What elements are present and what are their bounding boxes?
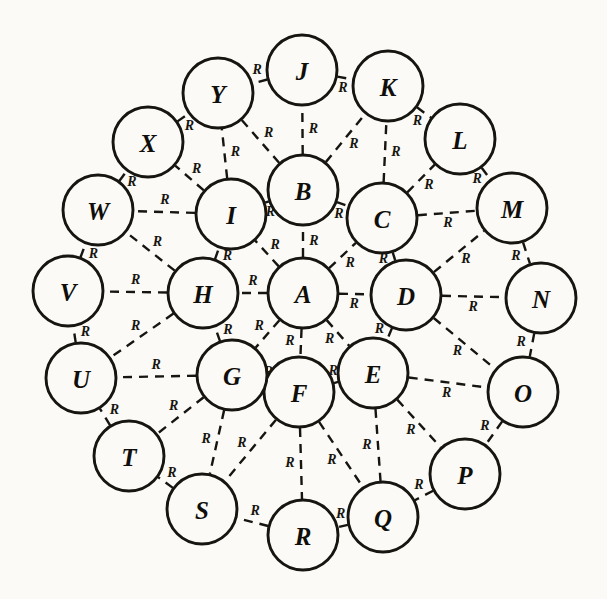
edge-label: R <box>510 248 520 263</box>
node-label-o: O <box>514 380 532 407</box>
edge-label: R <box>442 215 452 230</box>
node-label-v: V <box>60 279 79 306</box>
edge-label: R <box>151 357 161 372</box>
edge-d-e <box>387 328 392 340</box>
node-label-k: K <box>379 74 399 101</box>
edge-r-s <box>237 518 268 526</box>
edge-label: R <box>130 318 140 333</box>
edge-label: R <box>236 435 246 450</box>
edge-e-p <box>397 400 441 448</box>
edge-label: R <box>412 113 422 128</box>
edge-label: R <box>251 62 261 77</box>
edge-f-s <box>225 420 276 482</box>
edge-label: R <box>222 322 232 337</box>
edge-label: R <box>308 233 318 248</box>
node-k[interactable]: K <box>353 51 423 121</box>
edge-label: R <box>361 437 371 452</box>
edge-w-x <box>119 171 126 181</box>
edge-q-r <box>338 525 348 527</box>
node-q[interactable]: Q <box>348 482 418 552</box>
node-s[interactable]: S <box>167 474 237 544</box>
edge-label: R <box>468 299 478 314</box>
node-label-l: L <box>451 127 467 154</box>
edge-label: R <box>374 321 384 336</box>
diagram-canvas: RRRRRRRRRRRRRRRRRRRRRRRRRRRRRRRRRRRRRRRR… <box>0 0 607 599</box>
node-f[interactable]: F <box>264 357 334 427</box>
edge-b-k <box>326 114 365 162</box>
node-h[interactable]: H <box>168 258 238 328</box>
node-label-n: N <box>531 286 551 313</box>
edge-label: R <box>109 402 119 417</box>
edge-label: R <box>230 144 240 159</box>
edge-h-w <box>126 232 175 270</box>
node-r[interactable]: R <box>268 500 338 570</box>
node-o[interactable]: O <box>488 357 558 427</box>
node-p[interactable]: P <box>430 439 500 509</box>
node-v[interactable]: V <box>33 256 103 326</box>
edge-j-k <box>337 77 352 80</box>
node-n[interactable]: N <box>506 263 576 333</box>
edge-j-y <box>253 80 268 84</box>
node-l[interactable]: L <box>425 104 495 174</box>
node-label-r: R <box>294 523 312 550</box>
edge-label: R <box>247 273 257 288</box>
edge-n-o <box>530 333 534 356</box>
node-label-c: C <box>374 206 391 233</box>
node-e[interactable]: E <box>338 338 408 408</box>
edge-label: R <box>284 333 294 348</box>
edge-i-w <box>134 211 195 213</box>
edge-label: R <box>130 272 140 287</box>
node-label-q: Q <box>374 505 392 532</box>
edge-label: R <box>337 80 347 95</box>
edge-v-w <box>81 244 86 257</box>
node-label-t: T <box>121 444 138 471</box>
node-j[interactable]: J <box>267 35 337 105</box>
edge-p-q <box>415 491 433 501</box>
edge-label: R <box>423 177 433 192</box>
node-label-m: M <box>500 196 524 223</box>
edge-g-h <box>215 327 220 341</box>
node-c[interactable]: C <box>347 183 417 253</box>
node-a[interactable]: A <box>268 258 338 328</box>
node-x[interactable]: X <box>113 107 183 177</box>
node-u[interactable]: U <box>46 343 116 413</box>
edge-d-o <box>434 318 496 369</box>
node-label-h: H <box>192 281 214 308</box>
edge-label: R <box>201 431 211 446</box>
edge-f-q <box>319 422 363 487</box>
node-m[interactable]: M <box>477 173 547 243</box>
edge-i-y <box>222 129 227 178</box>
node-t[interactable]: T <box>94 421 164 491</box>
node-w[interactable]: W <box>63 175 133 245</box>
edge-label: R <box>479 418 489 433</box>
node-g[interactable]: G <box>197 340 267 410</box>
edge-label: R <box>349 296 359 311</box>
edge-label: R <box>166 465 176 480</box>
edge-f-r <box>300 428 302 499</box>
node-label-f: F <box>290 380 308 407</box>
node-i[interactable]: I <box>196 179 266 249</box>
edge-label: R <box>324 331 334 346</box>
node-label-w: W <box>87 198 111 225</box>
node-label-d: D <box>396 283 415 310</box>
edge-d-m <box>434 231 484 272</box>
edge-label: R <box>308 121 318 136</box>
node-label-x: X <box>139 130 158 157</box>
node-d[interactable]: D <box>371 260 441 330</box>
edge-label: R <box>191 161 201 176</box>
edge-a-d <box>339 294 370 295</box>
node-label-s: S <box>195 497 209 524</box>
edge-label: R <box>326 452 336 467</box>
node-label-e: E <box>364 361 382 388</box>
edge-label: R <box>152 234 162 249</box>
edge-label: R <box>222 248 232 263</box>
edge-label: R <box>516 334 526 349</box>
edge-m-n <box>523 242 530 263</box>
edge-label: R <box>472 171 482 186</box>
edge-label: R <box>80 324 90 339</box>
node-y[interactable]: Y <box>183 58 253 128</box>
node-b[interactable]: B <box>268 155 338 225</box>
edge-g-t <box>157 397 203 434</box>
node-label-i: I <box>225 202 237 229</box>
edge-d-n <box>442 296 505 297</box>
